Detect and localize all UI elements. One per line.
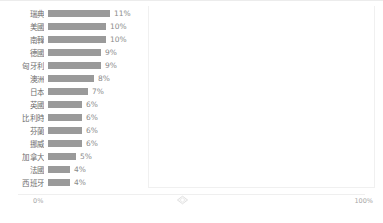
bar-value-label: 4% [74, 165, 86, 174]
bar-fill[interactable] [48, 10, 110, 17]
bar-fill[interactable] [48, 127, 82, 134]
bar-value-label: 6% [86, 113, 98, 122]
bar-track [48, 88, 88, 95]
bar-value-label: 8% [98, 74, 110, 83]
axis-min-label: 0% [33, 197, 43, 205]
bar-row: 比利時6% [0, 111, 148, 124]
bar-track [48, 49, 101, 56]
bar-category-label: 加拿大 [0, 151, 44, 162]
bar-fill[interactable] [48, 101, 82, 108]
bar-track [48, 179, 70, 186]
bar-row: 匈牙利9% [0, 59, 148, 72]
bar-category-label: 南韓 [0, 34, 44, 45]
bar-fill[interactable] [48, 140, 82, 147]
bar-fill[interactable] [48, 153, 76, 160]
bar-value-label: 5% [80, 152, 92, 161]
bar-value-label: 6% [86, 100, 98, 109]
bar-value-label: 10% [110, 22, 127, 31]
chart-body: 瑞典11%美國10%南韓10%德國9%匈牙利9%澳洲8%日本7%英國6%比利時6… [0, 3, 383, 193]
bar-row: 德國9% [0, 46, 148, 59]
bar-fill[interactable] [48, 114, 82, 121]
bar-value-label: 10% [110, 35, 127, 44]
bar-row: 南韓10% [0, 33, 148, 46]
bar-row: 美國10% [0, 20, 148, 33]
diamond-marker-icon[interactable] [176, 195, 189, 205]
bar-row: 加拿大5% [0, 150, 148, 163]
bar-fill[interactable] [48, 23, 106, 30]
bar-track [48, 62, 101, 69]
bar-track [48, 153, 76, 160]
bar-category-label: 芬蘭 [0, 125, 44, 136]
bar-track [48, 36, 106, 43]
bar-row: 日本7% [0, 85, 148, 98]
bar-track [48, 10, 110, 17]
bar-category-label: 英國 [0, 99, 44, 110]
bar-row: 英國6% [0, 98, 148, 111]
bar-category-label: 挪威 [0, 138, 44, 149]
bar-value-label: 6% [86, 126, 98, 135]
bar-row: 西班牙4% [0, 176, 148, 189]
bar-category-label: 比利時 [0, 112, 44, 123]
bar-category-label: 法國 [0, 164, 44, 175]
bar-value-label: 9% [105, 48, 117, 57]
bars-column: 瑞典11%美國10%南韓10%德國9%匈牙利9%澳洲8%日本7%英國6%比利時6… [0, 3, 148, 193]
bar-value-label: 4% [74, 178, 86, 187]
bar-track [48, 23, 106, 30]
bar-fill[interactable] [48, 62, 101, 69]
bar-chart-widget: 瑞典11%美國10%南韓10%德國9%匈牙利9%澳洲8%日本7%英國6%比利時6… [0, 0, 383, 223]
bar-fill[interactable] [48, 179, 70, 186]
bar-category-label: 德國 [0, 47, 44, 58]
bar-track [48, 75, 94, 82]
bar-category-label: 瑞典 [0, 8, 44, 19]
bar-track [48, 127, 82, 134]
bar-row: 芬蘭6% [0, 124, 148, 137]
bar-track [48, 101, 82, 108]
bar-fill[interactable] [48, 75, 94, 82]
bar-row: 挪威6% [0, 137, 148, 150]
bar-track [48, 166, 70, 173]
bar-track [48, 114, 82, 121]
bar-category-label: 匈牙利 [0, 60, 44, 71]
bar-category-label: 西班牙 [0, 177, 44, 188]
bar-value-label: 9% [105, 61, 117, 70]
bar-category-label: 澳洲 [0, 73, 44, 84]
bar-fill[interactable] [48, 88, 88, 95]
bar-category-label: 日本 [0, 86, 44, 97]
bar-value-label: 7% [92, 87, 104, 96]
bar-fill[interactable] [48, 166, 70, 173]
bar-row: 澳洲8% [0, 72, 148, 85]
chart-axis: 0% 100% [0, 194, 383, 210]
bar-fill[interactable] [48, 36, 106, 43]
bar-track [48, 140, 82, 147]
bar-row: 法國4% [0, 163, 148, 176]
bar-row: 瑞典11% [0, 7, 148, 20]
axis-max-label: 100% [354, 197, 373, 205]
right-empty-panel [148, 6, 375, 188]
bar-value-label: 11% [114, 9, 131, 18]
axis-line [18, 194, 365, 195]
bar-fill[interactable] [48, 49, 101, 56]
bar-category-label: 美國 [0, 21, 44, 32]
bar-value-label: 6% [86, 139, 98, 148]
